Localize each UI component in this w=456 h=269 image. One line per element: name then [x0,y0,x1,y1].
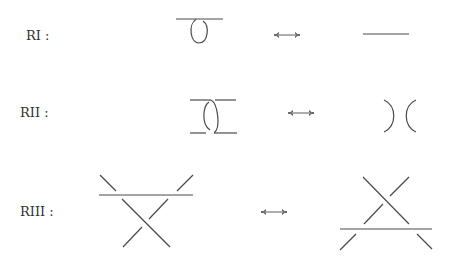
diagram-svg [0,0,456,269]
rii-left-crossings [190,100,237,133]
ri-left-curl [176,19,223,43]
reidemeister-diagram: RI : RII : RIII : [0,0,456,269]
rii-right-arcs [384,100,416,132]
riii-left-config [99,175,193,247]
riii-right-config [340,177,432,250]
